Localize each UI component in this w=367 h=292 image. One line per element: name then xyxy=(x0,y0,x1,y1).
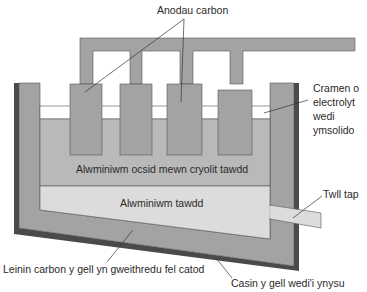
carbon-anode-2 xyxy=(120,84,152,155)
label-aluminium: Alwminiwm tawdd xyxy=(120,197,204,209)
label-crust-2: electrolyt xyxy=(313,96,355,108)
label-tap-hole: Twll tap xyxy=(323,188,359,200)
anode-bus-bar xyxy=(80,38,355,84)
electrolysis-cell-diagram: Anodau carbon Cramen o electrolyt wedi y… xyxy=(0,0,367,292)
label-crust-4: ymsolido xyxy=(313,124,355,136)
carbon-anode-1 xyxy=(70,84,102,155)
label-electrolyte: Alwminiwm ocsid mewn cryolit tawdd xyxy=(76,163,248,175)
label-casing: Casin y gell wedi'i ynysu xyxy=(231,277,345,289)
carbon-anode-4 xyxy=(218,90,252,155)
label-crust-3: wedi xyxy=(312,110,335,122)
label-anodes: Anodau carbon xyxy=(157,4,228,16)
label-crust-1: Cramen o xyxy=(313,82,359,94)
carbon-anode-3 xyxy=(167,84,202,155)
label-lining: Leinin carbon y gell yn gweithredu fel c… xyxy=(3,263,205,275)
